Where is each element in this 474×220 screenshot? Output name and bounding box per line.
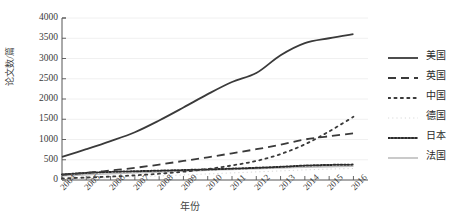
legend-line-swatch	[388, 149, 418, 159]
legend-line-swatch	[388, 49, 418, 59]
legend-line-swatch	[388, 69, 418, 79]
legend-line-sample	[388, 73, 418, 83]
legend-item[interactable]: 日本	[388, 124, 474, 144]
legend-label: 美国	[426, 47, 446, 62]
legend-line-swatch	[388, 109, 418, 119]
chart-figure: 05001000150020002500300035004000 论文数/篇 年…	[0, 0, 474, 220]
legend-label: 德国	[426, 107, 446, 122]
legend-item[interactable]: 英国	[388, 64, 474, 84]
legend-label: 日本	[426, 127, 446, 142]
chart-legend: 美国英国中国德国日本法国	[388, 44, 474, 164]
legend-line-sample	[388, 153, 418, 163]
legend-line-sample	[388, 93, 418, 103]
legend-item[interactable]: 法国	[388, 144, 474, 164]
legend-label: 中国	[426, 87, 446, 102]
legend-label: 法国	[426, 147, 446, 162]
legend-line-sample	[388, 133, 418, 143]
legend-item[interactable]: 美国	[388, 44, 474, 64]
legend-line-sample	[388, 53, 418, 63]
legend-line-sample	[388, 113, 418, 123]
legend-line-swatch	[388, 89, 418, 99]
legend-item[interactable]: 中国	[388, 84, 474, 104]
legend-label: 英国	[426, 67, 446, 82]
legend-line-swatch	[388, 129, 418, 139]
legend-item[interactable]: 德国	[388, 104, 474, 124]
